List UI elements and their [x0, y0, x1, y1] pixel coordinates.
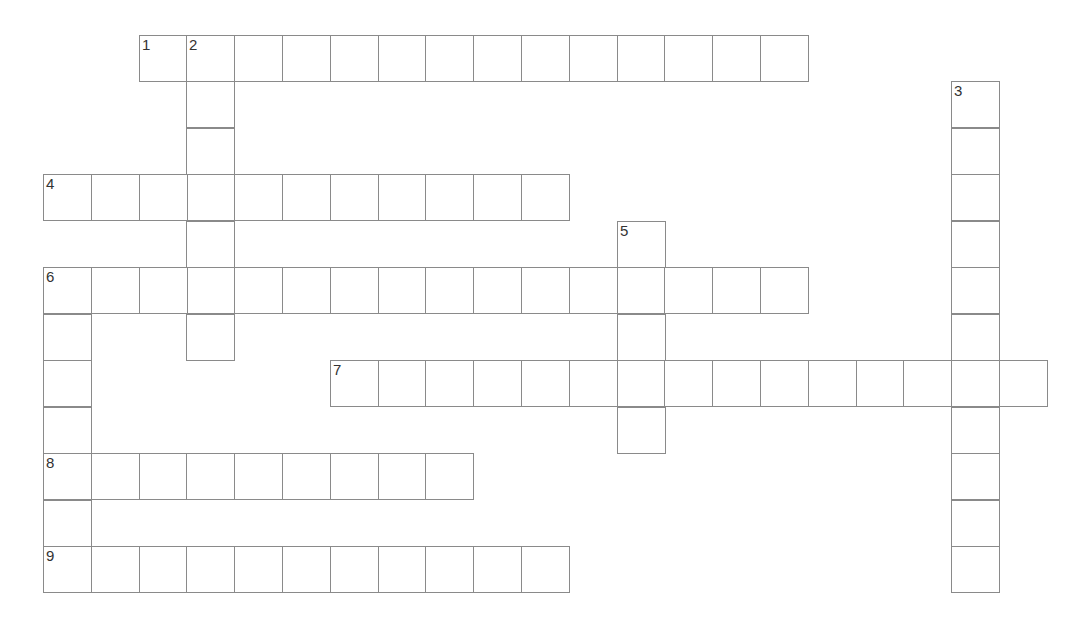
- crossword-cell[interactable]: [282, 267, 331, 314]
- crossword-cell[interactable]: 5: [617, 221, 666, 268]
- crossword-cell[interactable]: 2: [186, 35, 235, 82]
- crossword-cell[interactable]: [951, 221, 1000, 268]
- crossword-cell[interactable]: [521, 267, 570, 314]
- crossword-cell[interactable]: [951, 500, 1000, 547]
- crossword-cell[interactable]: [664, 360, 713, 407]
- crossword-cell[interactable]: [43, 360, 92, 407]
- crossword-grid: 123456897: [0, 0, 1092, 619]
- crossword-cell[interactable]: [91, 546, 140, 593]
- crossword-cell[interactable]: [234, 35, 283, 82]
- crossword-cell[interactable]: [186, 546, 235, 593]
- crossword-cell[interactable]: 3: [951, 81, 1000, 128]
- crossword-cell[interactable]: [712, 360, 761, 407]
- crossword-cell[interactable]: [91, 174, 140, 221]
- crossword-cell[interactable]: [521, 35, 570, 82]
- crossword-cell[interactable]: [139, 453, 188, 500]
- crossword-cell[interactable]: [521, 360, 570, 407]
- crossword-cell[interactable]: [378, 174, 427, 221]
- crossword-cell[interactable]: [234, 267, 283, 314]
- crossword-cell[interactable]: [282, 35, 331, 82]
- crossword-cell[interactable]: [951, 407, 1000, 454]
- crossword-cell[interactable]: [808, 360, 857, 407]
- crossword-cell[interactable]: [139, 267, 188, 314]
- crossword-cell[interactable]: [43, 407, 92, 454]
- crossword-cell[interactable]: [473, 360, 522, 407]
- crossword-cell[interactable]: [425, 35, 474, 82]
- crossword-cell[interactable]: [425, 267, 474, 314]
- crossword-cell[interactable]: [521, 546, 570, 593]
- crossword-cell[interactable]: [473, 267, 522, 314]
- crossword-cell[interactable]: [951, 546, 1000, 593]
- crossword-cell[interactable]: [569, 35, 618, 82]
- crossword-cell[interactable]: [664, 35, 713, 82]
- crossword-cell[interactable]: [760, 267, 809, 314]
- crossword-cell[interactable]: [951, 128, 1000, 175]
- crossword-cell[interactable]: [999, 360, 1048, 407]
- crossword-cell[interactable]: [186, 81, 235, 128]
- crossword-cell[interactable]: [378, 35, 427, 82]
- crossword-cell[interactable]: [473, 35, 522, 82]
- crossword-cell[interactable]: [951, 267, 1000, 314]
- crossword-cell[interactable]: [951, 314, 1000, 361]
- crossword-cell[interactable]: [951, 360, 1000, 407]
- crossword-cell[interactable]: [43, 314, 92, 361]
- crossword-cell[interactable]: [569, 360, 618, 407]
- crossword-cell[interactable]: 4: [43, 174, 92, 221]
- crossword-cell[interactable]: [569, 267, 618, 314]
- crossword-cell[interactable]: [425, 360, 474, 407]
- crossword-cell[interactable]: [617, 314, 666, 361]
- crossword-cell[interactable]: [91, 453, 140, 500]
- crossword-cell[interactable]: 9: [43, 546, 92, 593]
- crossword-cell[interactable]: [139, 174, 188, 221]
- crossword-cell[interactable]: [330, 267, 379, 314]
- clue-number: 3: [954, 83, 962, 98]
- crossword-cell[interactable]: [378, 546, 427, 593]
- crossword-cell[interactable]: [234, 453, 283, 500]
- crossword-cell[interactable]: [234, 546, 283, 593]
- crossword-cell[interactable]: [425, 453, 474, 500]
- crossword-cell[interactable]: [473, 174, 522, 221]
- crossword-cell[interactable]: [951, 174, 1000, 221]
- crossword-cell[interactable]: [760, 35, 809, 82]
- crossword-cell[interactable]: [378, 267, 427, 314]
- crossword-cell[interactable]: [856, 360, 905, 407]
- crossword-cell[interactable]: [425, 174, 474, 221]
- crossword-cell[interactable]: [186, 267, 235, 314]
- crossword-cell[interactable]: 7: [330, 360, 379, 407]
- crossword-cell[interactable]: [186, 453, 235, 500]
- crossword-cell[interactable]: [425, 546, 474, 593]
- crossword-cell[interactable]: [664, 267, 713, 314]
- crossword-cell[interactable]: [91, 267, 140, 314]
- crossword-cell[interactable]: 1: [139, 35, 188, 82]
- crossword-cell[interactable]: [617, 407, 666, 454]
- crossword-cell[interactable]: [282, 546, 331, 593]
- crossword-cell[interactable]: [330, 546, 379, 593]
- crossword-cell[interactable]: [186, 174, 235, 221]
- crossword-cell[interactable]: [282, 174, 331, 221]
- crossword-cell[interactable]: [186, 314, 235, 361]
- crossword-cell[interactable]: [139, 546, 188, 593]
- crossword-cell[interactable]: [330, 35, 379, 82]
- clue-number: 7: [333, 362, 341, 377]
- crossword-cell[interactable]: [43, 500, 92, 547]
- crossword-cell[interactable]: [712, 35, 761, 82]
- crossword-cell[interactable]: [330, 174, 379, 221]
- crossword-cell[interactable]: [234, 174, 283, 221]
- crossword-cell[interactable]: [951, 453, 1000, 500]
- crossword-cell[interactable]: [473, 546, 522, 593]
- crossword-cell[interactable]: [378, 360, 427, 407]
- crossword-cell[interactable]: [760, 360, 809, 407]
- crossword-cell[interactable]: [186, 128, 235, 175]
- crossword-cell[interactable]: [617, 267, 666, 314]
- crossword-cell[interactable]: [903, 360, 952, 407]
- crossword-cell[interactable]: [282, 453, 331, 500]
- crossword-cell[interactable]: [378, 453, 427, 500]
- crossword-cell[interactable]: [617, 35, 666, 82]
- crossword-cell[interactable]: [186, 221, 235, 268]
- crossword-cell[interactable]: 8: [43, 453, 92, 500]
- crossword-cell[interactable]: 6: [43, 267, 92, 314]
- crossword-cell[interactable]: [712, 267, 761, 314]
- crossword-cell[interactable]: [617, 360, 666, 407]
- crossword-cell[interactable]: [521, 174, 570, 221]
- crossword-cell[interactable]: [330, 453, 379, 500]
